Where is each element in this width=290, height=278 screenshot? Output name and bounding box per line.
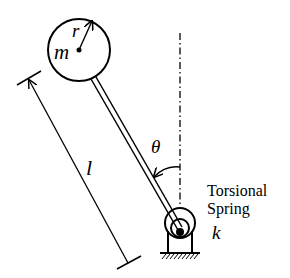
angle-label: θ: [151, 136, 160, 158]
length-label: l: [86, 155, 92, 181]
diagram-canvas: m r l θ Torsional Spring k: [0, 0, 290, 278]
ground-support: [160, 253, 200, 259]
mass-label: m: [54, 40, 69, 65]
radius-label: r: [72, 20, 79, 42]
spring-label-line2: Spring: [207, 200, 250, 218]
stiffness-label: k: [212, 222, 220, 244]
pendulum-diagram: [0, 0, 290, 278]
length-dimension: [17, 71, 141, 269]
rod: [91, 77, 182, 230]
angle-arc: [154, 167, 180, 177]
spring-label-line1: Torsional: [207, 182, 267, 200]
